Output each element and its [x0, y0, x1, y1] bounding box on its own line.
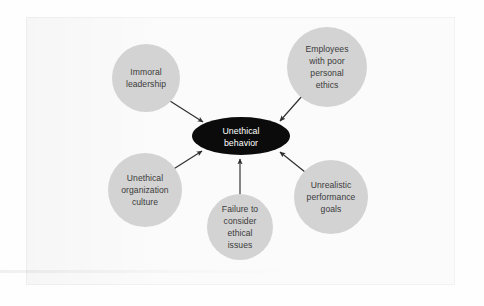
- page-canvas: Immoral leadership Employees with poor p…: [0, 0, 484, 306]
- node-label-employees-line4: ethics: [316, 80, 339, 90]
- node-unethical-organization-culture[interactable]: Unethical organization culture: [108, 153, 182, 227]
- connector-employees-poor-ethics-to-hub: [280, 95, 303, 121]
- node-label-employees-line1: Employees: [306, 44, 349, 54]
- node-label-unrealistic-line2: performance: [307, 192, 356, 202]
- node-label-employees-line2: with poor: [308, 56, 344, 66]
- node-label-employees-line3: personal: [310, 68, 343, 78]
- node-circle-immoral-leadership: [112, 44, 180, 112]
- node-label-immoral-leadership-line1: Immoral: [130, 67, 161, 77]
- node-immoral-leadership[interactable]: Immoral leadership: [112, 44, 180, 112]
- hub-unethical-behavior[interactable]: Unethical behavior: [192, 117, 290, 155]
- node-label-failure-line4: issues: [228, 240, 253, 250]
- connector-unrealistic-goals-to-hub: [280, 152, 305, 172]
- connector-immoral-leadership-to-hub: [170, 101, 203, 122]
- node-circle-employees-poor-personal-ethics: [287, 27, 367, 107]
- node-label-unrealistic-line1: Unrealistic: [311, 180, 352, 190]
- connector-unethical-culture-to-hub: [172, 151, 202, 170]
- node-employees-poor-personal-ethics[interactable]: Employees with poor personal ethics: [287, 27, 367, 107]
- node-label-failure-line1: Failure to: [222, 204, 258, 214]
- node-unrealistic-performance-goals[interactable]: Unrealistic performance goals: [294, 160, 368, 234]
- node-label-unrealistic-line3: goals: [321, 204, 342, 214]
- hub-label-line1: Unethical: [222, 126, 259, 136]
- node-label-culture-line2: organization: [121, 185, 169, 195]
- node-label-failure-line3: ethical: [227, 228, 252, 238]
- hub-label-line2: behavior: [224, 138, 258, 148]
- node-label-culture-line3: culture: [132, 197, 158, 207]
- unethical-behavior-diagram: Immoral leadership Employees with poor p…: [0, 0, 484, 306]
- hub-ellipse-shape: [192, 117, 290, 155]
- node-label-culture-line1: Unethical: [127, 173, 163, 183]
- node-label-failure-line2: consider: [224, 216, 257, 226]
- node-label-immoral-leadership-line2: leadership: [126, 79, 166, 89]
- node-failure-to-consider-ethical-issues[interactable]: Failure to consider ethical issues: [207, 194, 273, 260]
